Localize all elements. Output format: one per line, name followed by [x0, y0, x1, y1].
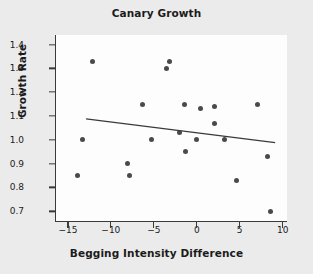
- y-tick-label: 0.7: [0, 206, 24, 216]
- y-tick-mark: [49, 44, 55, 45]
- y-tick-mark: [49, 211, 55, 212]
- x-tick-mark: [67, 222, 68, 228]
- y-tick-label: 1.2: [0, 87, 24, 97]
- y-tick-mark: [49, 115, 55, 116]
- plot-area: [55, 35, 287, 222]
- y-tick-label: 0.8: [0, 182, 24, 192]
- y-tick-mark: [49, 139, 55, 140]
- x-tick-mark: [196, 222, 197, 228]
- chart-figure: Canary Growth Growth Rate Begging Intens…: [0, 0, 313, 274]
- x-tick-mark: [282, 222, 283, 228]
- y-tick-label: 1.3: [0, 63, 24, 73]
- y-tick-mark: [49, 163, 55, 164]
- x-tick-mark: [153, 222, 154, 228]
- chart-title: Canary Growth: [0, 7, 313, 19]
- y-tick-label: 1.1: [0, 111, 24, 121]
- y-tick-label: 1.4: [0, 40, 24, 50]
- y-tick-mark: [49, 187, 55, 188]
- y-tick-label: 0.9: [0, 159, 24, 169]
- y-tick-label: 1.0: [0, 135, 24, 145]
- y-tick-mark: [49, 68, 55, 69]
- x-axis-title: Begging Intensity Difference: [0, 247, 313, 259]
- x-tick-mark: [110, 222, 111, 228]
- y-tick-mark: [49, 92, 55, 93]
- x-tick-mark: [239, 222, 240, 228]
- trend-line: [56, 35, 288, 222]
- y-axis-title: Growth Rate: [16, 11, 28, 151]
